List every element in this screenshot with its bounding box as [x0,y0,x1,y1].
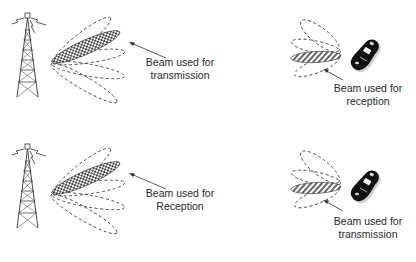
panel-top-right [290,15,381,81]
reception-beam-checkered [49,157,122,200]
mobile-phone-icon [351,170,381,203]
label-line2: reception [328,95,408,108]
label-line2: transmission [328,228,408,241]
label-line1: Beam used for [140,56,220,69]
label-line1: Beam used for [328,82,408,95]
label-bottom-right: Beam used for transmission [328,215,408,241]
side-beams [290,146,344,212]
transmission-beam-checkered [49,26,122,69]
reception-beam-hatched [291,50,342,64]
arrowhead-icon [129,42,135,46]
arrowhead-icon [323,69,329,73]
transmission-beam-hatched [291,181,342,195]
beamforming-diagram: Beam used for transmission Beam used for… [0,0,416,262]
arrowhead-icon [323,200,329,204]
panel-bottom-right [290,146,381,212]
label-bottom-left: Beam used for Reception [140,187,220,213]
base-station-tower-icon [12,13,46,97]
label-top-right: Beam used for reception [328,82,408,108]
mobile-phone-icon [351,39,381,72]
arrowhead-icon [129,173,135,177]
base-station-tower-icon [12,144,46,228]
label-top-left: Beam used for transmission [140,56,220,82]
label-line2: Reception [140,200,220,213]
side-beams [290,15,344,81]
label-line2: transmission [140,69,220,82]
label-line1: Beam used for [140,187,220,200]
label-line1: Beam used for [328,215,408,228]
